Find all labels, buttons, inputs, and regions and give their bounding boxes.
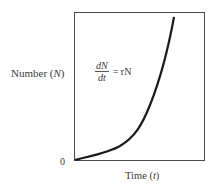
plot-area	[0, 0, 218, 186]
y-axis-label: Number (N)	[11, 67, 64, 79]
x-axis-label: Time (t)	[125, 170, 159, 181]
plot-frame	[75, 13, 205, 161]
numerator: dN	[95, 60, 109, 72]
growth-curve	[75, 17, 174, 160]
derivative-fraction: dN dt	[95, 60, 109, 83]
denominator: dt	[98, 72, 106, 83]
origin-label: 0	[60, 156, 65, 167]
growth-equation: dN dt = rN	[95, 60, 131, 83]
equation-rhs: = rN	[113, 66, 132, 77]
